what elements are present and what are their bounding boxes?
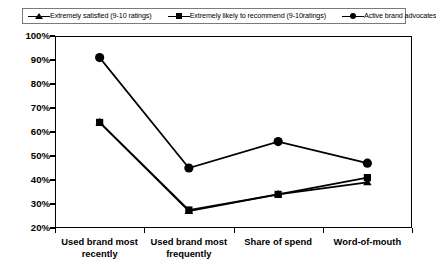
x-axis-tick-mark <box>412 228 413 233</box>
legend-entry-active-brand-advocates: Active brand advocates <box>342 9 436 23</box>
y-axis-tick-label: 70% <box>8 103 50 113</box>
y-axis-tick-mark <box>50 179 55 180</box>
legend-entry-extremely-likely-to-recommend: Extremely likely to recommend (9-10ratin… <box>168 9 326 23</box>
x-axis-tick-mark <box>323 228 324 233</box>
y-axis-tick-mark <box>50 59 55 60</box>
x-axis-category-label: Share of spend <box>234 236 323 248</box>
y-axis-tick-mark <box>50 35 55 36</box>
y-axis-tick-label: 30% <box>8 199 50 209</box>
y-axis-tick-label: 90% <box>8 55 50 65</box>
y-axis-tick-label: 50% <box>8 151 50 161</box>
x-axis-tick-mark <box>55 228 56 233</box>
circle-marker-icon <box>342 11 364 22</box>
y-axis-tick-label: 60% <box>8 127 50 137</box>
y-axis-tick-mark <box>50 155 55 156</box>
x-axis-category-label: Word-of-mouth <box>323 236 412 248</box>
x-axis-category-label: Used brand mostrecently <box>55 236 144 259</box>
triangle-marker-icon <box>28 11 50 22</box>
y-axis-tick-label: 40% <box>8 175 50 185</box>
legend-label: Active brand advocates <box>364 12 436 20</box>
x-axis-tick-mark <box>144 228 145 233</box>
y-axis-tick-mark <box>50 131 55 132</box>
y-axis-tick-label: 100% <box>8 31 50 41</box>
x-axis-tick-mark <box>234 228 235 233</box>
y-axis-tick-mark <box>50 203 55 204</box>
y-axis-tick-mark <box>50 83 55 84</box>
legend-label: Extremely satisfied (9-10 ratings) <box>50 12 152 20</box>
legend-entry-extremely-satisfied: Extremely satisfied (9-10 ratings) <box>28 9 152 23</box>
square-marker-icon <box>168 11 190 22</box>
legend-label: Extremely likely to recommend (9-10ratin… <box>190 12 326 20</box>
y-axis-tick-label: 20% <box>8 223 50 233</box>
chart-legend: Extremely satisfied (9-10 ratings) Extre… <box>22 8 406 24</box>
plot-area <box>55 36 412 228</box>
y-axis-tick-mark <box>50 107 55 108</box>
x-axis-category-label: Used brand mostfrequently <box>144 236 233 259</box>
y-axis-tick-label: 80% <box>8 79 50 89</box>
